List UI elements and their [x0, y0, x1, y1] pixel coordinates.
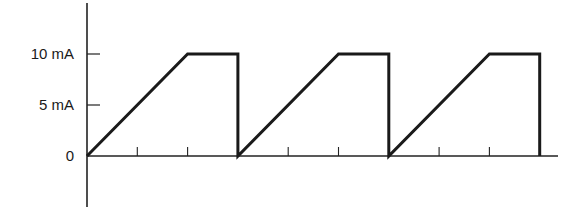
x-ticks [137, 147, 489, 156]
y-label-10ma: 10 mA [4, 46, 74, 62]
y-label-5ma: 5 mA [4, 97, 74, 113]
y-label-0: 0 [4, 148, 74, 164]
waveform-chart [0, 0, 568, 211]
current-waveform [87, 54, 540, 156]
